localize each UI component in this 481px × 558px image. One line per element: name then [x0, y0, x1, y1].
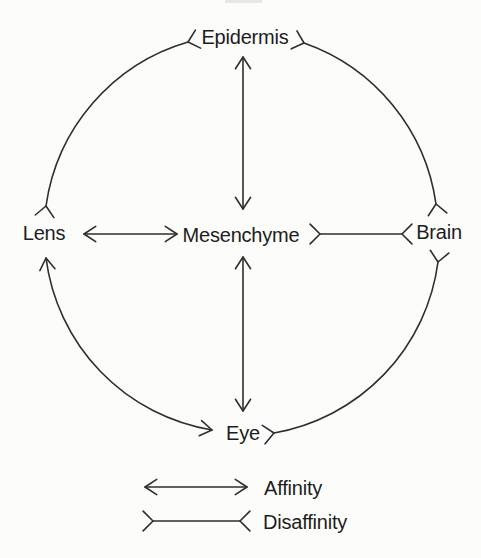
- arrow-mesenchyme-eye-affinity: [235, 257, 250, 411]
- legend-disaffinity-symbol: [143, 511, 250, 531]
- arc-lens-eye-affinity: [40, 258, 212, 436]
- legend-affinity-symbol: [145, 479, 247, 494]
- disaffinity-fork-icon: [35, 206, 54, 218]
- legend-label-disaffinity: Disaffinity: [263, 511, 347, 534]
- disaffinity-fork-icon: [188, 30, 201, 48]
- disaffinity-fork-icon: [428, 204, 447, 216]
- arc-epidermis-lens-disaffinity: [35, 30, 200, 218]
- arc-epidermis-brain-disaffinity: [291, 31, 447, 216]
- disaffinity-fork-icon: [262, 425, 274, 444]
- disaffinity-fork-icon: [240, 511, 250, 531]
- disaffinity-fork-icon: [402, 224, 412, 244]
- legend-label-affinity: Affinity: [264, 477, 322, 500]
- disaffinity-fork-icon: [310, 224, 320, 244]
- line-mesenchyme-brain-disaffinity: [310, 224, 412, 244]
- node-label-mesenchyme: Mesenchyme: [183, 224, 300, 247]
- embryology-affinity-diagram: Epidermis Lens Mesenchyme Brain Eye Affi…: [0, 0, 481, 558]
- node-label-lens: Lens: [23, 222, 66, 245]
- disaffinity-fork-icon: [430, 250, 449, 262]
- arc-eye-brain-disaffinity: [262, 250, 449, 443]
- disaffinity-fork-icon: [291, 31, 304, 49]
- node-label-epidermis: Epidermis: [201, 26, 288, 49]
- arrow-lens-mesenchyme-affinity: [84, 226, 177, 241]
- diagram-linework: [0, 0, 481, 558]
- disaffinity-fork-icon: [143, 511, 153, 531]
- node-label-eye: Eye: [226, 422, 260, 445]
- arrow-epidermis-mesenchyme-affinity: [235, 57, 250, 209]
- node-label-brain: Brain: [416, 221, 462, 244]
